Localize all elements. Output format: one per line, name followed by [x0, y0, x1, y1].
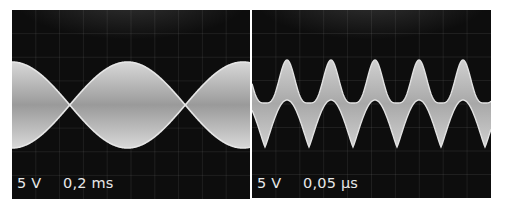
volts-per-div-label: 5 V — [257, 175, 281, 191]
waveform-left — [12, 10, 250, 199]
oscilloscope-panel-right: 5 V 0,05 µs — [252, 10, 491, 198]
volts-per-div-label: 5 V — [17, 175, 41, 191]
oscilloscope-panel-left: 5 V 0,2 ms — [12, 10, 250, 199]
waveform-right — [252, 10, 491, 198]
time-per-div-label: 0,05 µs — [303, 175, 358, 191]
time-per-div-label: 0,2 ms — [63, 175, 114, 191]
